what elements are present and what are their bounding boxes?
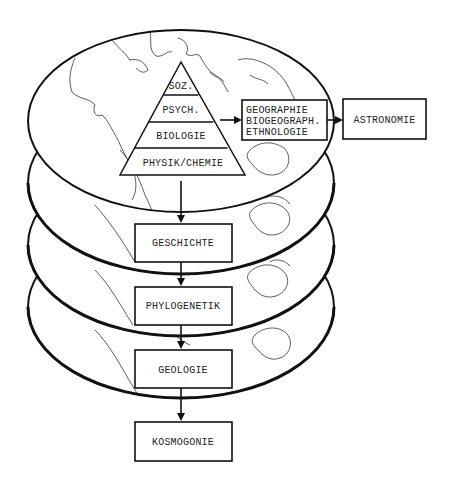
kosmogonie-box: KOSMOGONIE <box>135 422 232 461</box>
geologie-box: GEOLOGIE <box>135 350 232 388</box>
astronomie-label: ASTRONOMIE <box>353 115 415 126</box>
astronomie-box: ASTRONOMIE <box>343 99 426 139</box>
pyramid-level-soz: SOZ. <box>169 81 194 92</box>
geschichte-label: GESCHICHTE <box>152 238 214 249</box>
diagram-canvas: SOZ. PSYCH. BIOLOGIE PHYSIK/CHEMIE GEOGR… <box>0 0 450 489</box>
pyramid-level-physik-chemie: PHYSIK/CHEMIE <box>143 158 224 169</box>
geographie-box: GEOGRAPHIE BIOGEOGRAPH. ETHNOLOGIE <box>242 100 327 140</box>
geologie-label: GEOLOGIE <box>158 365 208 376</box>
geographie-line-1: GEOGRAPHIE <box>246 105 308 116</box>
geschichte-box: GESCHICHTE <box>135 224 232 262</box>
phylogenetik-label: PHYLOGENETIK <box>146 301 220 312</box>
geographie-line-2: BIOGEOGRAPH. <box>246 116 320 127</box>
kosmogonie-label: KOSMOGONIE <box>152 437 214 448</box>
phylogenetik-box: PHYLOGENETIK <box>135 287 232 325</box>
geographie-line-3: ETHNOLOGIE <box>246 127 308 138</box>
pyramid-level-biologie: BIOLOGIE <box>156 131 206 142</box>
pyramid-level-psych: PSYCH. <box>162 105 199 116</box>
